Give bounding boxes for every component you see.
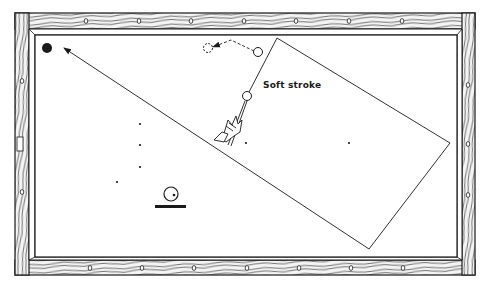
spot-dot	[139, 144, 141, 146]
diamond-sight-icon	[401, 266, 405, 271]
soft-stroke-label: Soft stroke	[263, 80, 321, 90]
diamond-sight-icon	[242, 19, 246, 24]
diamond-sight-icon	[84, 19, 88, 24]
diamond-sight-icon	[466, 193, 470, 198]
diamond-sight-icon	[294, 19, 298, 24]
felt	[35, 35, 457, 257]
spot-dot	[348, 142, 350, 144]
diamond-sight-icon	[192, 266, 196, 271]
diamond-sight-icon	[245, 266, 249, 271]
diamond-sight-icon	[88, 266, 92, 271]
diamond-sight-icon	[347, 19, 351, 24]
diamond-sight-icon	[466, 142, 470, 147]
spot-dot	[139, 123, 141, 125]
table-frame	[15, 13, 475, 275]
ghost-ball-end	[204, 44, 213, 53]
diamond-sight-icon	[349, 266, 353, 271]
spot-dot	[116, 181, 118, 183]
spot-dot	[245, 142, 247, 144]
diamond-sight-icon	[20, 190, 24, 195]
cue-ball	[243, 92, 252, 101]
diamond-sight-icon	[400, 19, 404, 24]
object-ball	[42, 43, 52, 53]
spot-dot	[139, 166, 141, 168]
diamond-sight-icon	[137, 19, 141, 24]
diamond-sight-icon	[20, 79, 24, 84]
diamond-sight-icon	[189, 19, 193, 24]
diamond-sight-icon	[466, 83, 470, 88]
rail-marker	[17, 137, 23, 151]
ghost-ball-start	[254, 48, 263, 57]
diamond-sight-icon	[140, 266, 144, 271]
diamond-sight-icon	[297, 266, 301, 271]
billiards-diagram	[0, 0, 495, 289]
